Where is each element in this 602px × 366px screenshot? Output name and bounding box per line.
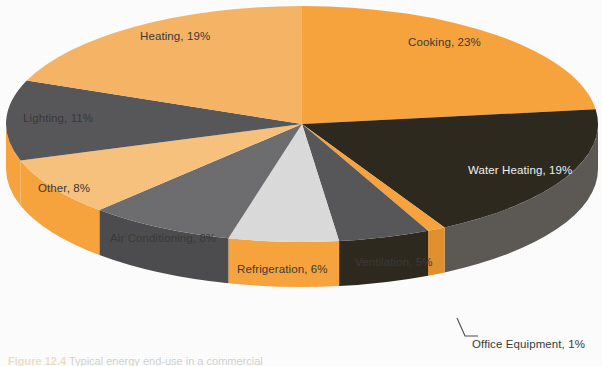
figure-caption-text: Typical energy end-use in a commercial [69,355,263,366]
pie-side-refrigeration [228,238,339,287]
figure-caption: Figure 12.4 Typical energy end-use in a … [8,355,263,366]
pie-slice-cooking[interactable] [302,6,596,124]
figure-caption-number: Figure 12.4 [8,355,66,366]
callout-leader-lines [457,318,478,336]
pie-chart-svg [0,0,602,366]
pie-top-faces [6,6,598,242]
pie-side-office-equipment [428,227,445,275]
pie-chart-figure: Cooking, 23%Water Heating, 19%Office Equ… [0,0,602,366]
office-equipment-leader-line [457,318,478,336]
